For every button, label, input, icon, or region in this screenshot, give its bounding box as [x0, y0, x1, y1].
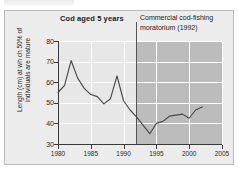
plot-area: 80 70 60 50 40 30 1980 1985 1990 1995 20…: [0, 0, 238, 170]
moratorium-annotation-line1: Commercial cod-fishing: [140, 14, 213, 21]
moratorium-annotation: Commercial cod-fishing moratorium (1992): [140, 13, 236, 32]
series-line-cod-maturity: [58, 61, 202, 134]
chart-title: Cod aged 5 years: [60, 14, 124, 23]
y-axis-title: Length (cm) at wh ch 50% of individuals …: [16, 11, 32, 129]
figure-root: 80 70 60 50 40 30 1980 1985 1990 1995 20…: [0, 0, 238, 170]
y-axis-title-line2: individuals are mature: [24, 11, 32, 129]
y-axis-title-line1: Length (cm) at wh ch 50% of: [16, 11, 24, 129]
moratorium-annotation-line2: moratorium (1992): [140, 24, 198, 31]
